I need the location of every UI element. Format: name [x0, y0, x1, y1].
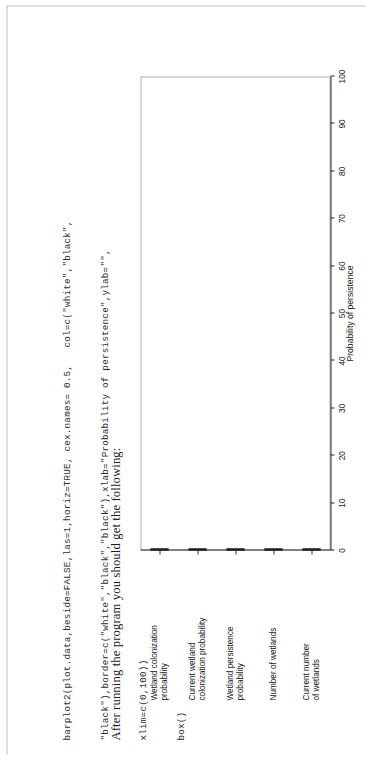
category-label-line: Number of wetlands — [268, 556, 278, 700]
category-label: Current wetlandcolonization probability — [187, 556, 207, 700]
category-label: Current numberof wetlands — [301, 556, 321, 700]
category-label: Wetland colonizationprobability — [149, 556, 169, 700]
y-axis-tick — [273, 550, 274, 554]
bar-row — [264, 398, 282, 550]
x-axis-tick — [330, 502, 334, 503]
y-axis — [140, 549, 330, 550]
x-axis-tick — [330, 312, 334, 313]
category-label-line: of wetlands — [311, 556, 321, 700]
category-label-line: Current wetland — [187, 556, 197, 700]
x-axis-title: Probability of persistence — [344, 76, 354, 550]
x-axis-tick — [330, 549, 334, 550]
x-axis-tick — [330, 359, 334, 360]
x-axis: 0102030405060708090100 — [330, 76, 331, 550]
category-label-line: Wetland persistence — [225, 556, 235, 700]
x-axis-tick — [330, 265, 334, 266]
y-axis-tick — [311, 550, 312, 554]
x-axis-tick — [330, 407, 334, 408]
figure-barplot: Wetland colonizationprobabilityCurrent w… — [138, 60, 364, 700]
bar-row — [188, 123, 206, 550]
rotated-page-wrapper: barplot2(plot.data,beside=FALSE,las=1,ho… — [0, 0, 391, 784]
x-axis-tick — [330, 217, 334, 218]
category-label-line: colonization probability — [197, 556, 207, 700]
category-labels: Wetland colonizationprobabilityCurrent w… — [140, 556, 330, 700]
x-axis-tick — [330, 170, 334, 171]
category-label: Number of wetlands — [268, 556, 278, 700]
category-label-line: probability — [235, 556, 245, 700]
code-line-1: barplot2(plot.data,beside=FALSE,las=1,ho… — [61, 40, 74, 740]
category-label-line: Current number — [301, 556, 311, 700]
screenshot-page: barplot2(plot.data,beside=FALSE,las=1,ho… — [0, 0, 391, 784]
bar-row — [302, 389, 320, 550]
x-axis-tick — [330, 122, 334, 123]
category-label-line: Wetland colonization — [149, 556, 159, 700]
x-axis-tick — [330, 75, 334, 76]
bar-row — [150, 114, 168, 550]
x-axis-tick — [330, 454, 334, 455]
category-label-line: probability — [159, 556, 169, 700]
prose-paragraph: After running the program you should get… — [108, 447, 123, 740]
category-label: Wetland persistenceprobability — [225, 556, 245, 700]
bar-row — [226, 147, 244, 550]
y-axis-tick — [235, 550, 236, 554]
y-axis-tick — [197, 550, 198, 554]
bar-series — [140, 76, 330, 550]
scanned-page: barplot2(plot.data,beside=FALSE,las=1,ho… — [0, 0, 391, 784]
y-axis-tick — [159, 550, 160, 554]
